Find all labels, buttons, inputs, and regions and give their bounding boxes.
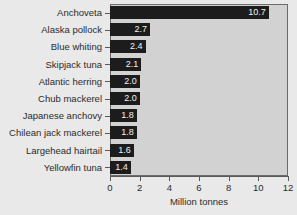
bar: 2.7 xyxy=(110,23,150,36)
category-label: Yellowfin tuna xyxy=(0,159,106,176)
value-axis-tick xyxy=(229,176,230,181)
bar: 2.0 xyxy=(110,75,140,88)
category-axis-labels: Anchoveta Alaska pollock Blue whiting Sk… xyxy=(0,4,106,176)
value-axis-tick xyxy=(288,176,289,181)
category-label: Chilean jack mackerel xyxy=(0,124,106,141)
category-label: Chub mackerel xyxy=(0,90,106,107)
bar-row: 10.7 xyxy=(110,4,288,21)
value-axis-tick xyxy=(258,176,259,181)
value-axis-tick-label: 8 xyxy=(226,182,231,193)
bar: 2.0 xyxy=(110,92,140,105)
bar-row: 2.1 xyxy=(110,56,288,73)
value-axis-tick-label: 4 xyxy=(167,182,172,193)
value-axis-tick-labels: 024681012 xyxy=(110,182,288,194)
value-axis-tick-label: 6 xyxy=(196,182,201,193)
bar: 1.8 xyxy=(110,109,137,122)
bar: 1.4 xyxy=(110,161,131,174)
bar-value-label: 1.8 xyxy=(121,111,137,120)
bar-value-label: 10.7 xyxy=(248,8,269,17)
bar: 10.7 xyxy=(110,6,269,19)
category-label: Japanese anchovy xyxy=(0,107,106,124)
value-axis-tick xyxy=(140,176,141,181)
value-axis-tick xyxy=(110,176,111,181)
bar-value-label: 2.4 xyxy=(130,42,146,51)
category-label: Blue whiting xyxy=(0,38,106,55)
bar-value-label: 1.4 xyxy=(115,163,131,172)
bar-value-label: 2.0 xyxy=(124,94,140,103)
category-label: Largehead hairtail xyxy=(0,142,106,159)
bar-row: 1.6 xyxy=(110,142,288,159)
category-label: Anchoveta xyxy=(0,4,106,21)
bar-chart: Anchoveta Alaska pollock Blue whiting Sk… xyxy=(0,0,297,215)
bar: 2.1 xyxy=(110,58,141,71)
bar-row: 2.0 xyxy=(110,90,288,107)
value-axis-ticks xyxy=(110,176,288,181)
category-label: Alaska pollock xyxy=(0,21,106,38)
bar-row: 1.8 xyxy=(110,107,288,124)
value-axis-tick xyxy=(199,176,200,181)
value-axis-tick xyxy=(169,176,170,181)
bar-row: 1.8 xyxy=(110,124,288,141)
bar-row: 2.0 xyxy=(110,73,288,90)
bar-value-label: 2.0 xyxy=(124,77,140,86)
bar: 2.4 xyxy=(110,40,146,53)
bar-row: 2.4 xyxy=(110,38,288,55)
bar-row: 2.7 xyxy=(110,21,288,38)
bar: 1.6 xyxy=(110,144,134,157)
value-axis-title: Million tonnes xyxy=(110,196,288,207)
value-axis-tick-label: 12 xyxy=(283,182,294,193)
bar-series: 10.7 2.7 2.4 2.1 2.0 2.0 xyxy=(110,4,288,176)
category-label: Atlantic herring xyxy=(0,73,106,90)
category-label: Skipjack tuna xyxy=(0,56,106,73)
bar-value-label: 2.7 xyxy=(135,25,151,34)
bar: 1.8 xyxy=(110,126,137,139)
bar-row: 1.4 xyxy=(110,159,288,176)
value-axis-tick-label: 0 xyxy=(107,182,112,193)
value-axis-tick-label: 10 xyxy=(253,182,264,193)
bar-value-label: 1.6 xyxy=(118,146,134,155)
bar-value-label: 2.1 xyxy=(126,60,142,69)
value-axis-tick-label: 2 xyxy=(137,182,142,193)
bar-value-label: 1.8 xyxy=(121,128,137,137)
